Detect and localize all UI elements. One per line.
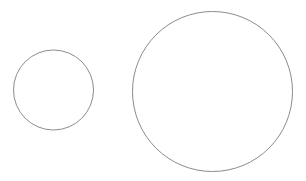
diagram-canvas bbox=[0, 0, 306, 181]
small-circle bbox=[14, 50, 94, 130]
large-circle bbox=[133, 12, 293, 172]
